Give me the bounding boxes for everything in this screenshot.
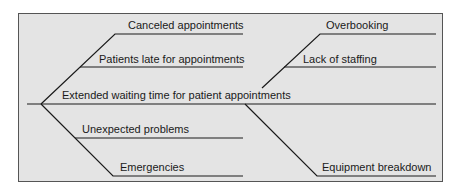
cause-overbooking: Overbooking — [326, 19, 388, 32]
cause-equipment-breakdown: Equipment breakdown — [322, 161, 431, 174]
cause-canceled-appointments: Canceled appointments — [128, 19, 244, 32]
cause-unexpected-problems: Unexpected problems — [82, 123, 189, 136]
cause-emergencies: Emergencies — [120, 161, 184, 174]
effect-label: Extended waiting time for patient appoin… — [62, 89, 291, 102]
cause-patients-late: Patients late for appointments — [99, 53, 245, 66]
cause-lack-of-staffing: Lack of staffing — [303, 53, 377, 66]
